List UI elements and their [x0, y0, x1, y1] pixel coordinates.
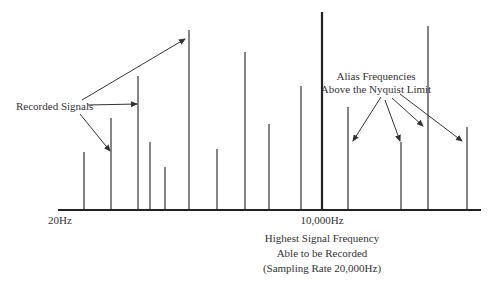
- axis-nyquist-label: 10,000Hz: [300, 214, 343, 227]
- axis-start-label: 20Hz: [48, 214, 72, 227]
- nyquist-caption-line3: (Sampling Rate 20,000Hz): [263, 262, 381, 275]
- recorded-signals-label: Recorded Signals: [16, 100, 93, 113]
- frequency-spectrum-diagram: [0, 0, 493, 285]
- arrow-icon: [400, 94, 462, 141]
- nyquist-caption-line2: Able to be Recorded: [277, 247, 368, 260]
- arrow-icon: [353, 97, 381, 141]
- arrow-icon: [385, 100, 400, 141]
- nyquist-caption-line1: Highest Signal Frequency: [265, 232, 379, 245]
- arrow-icon: [82, 39, 185, 100]
- alias-frequencies-label-line1: Alias Frequencies: [336, 70, 415, 83]
- arrow-icon: [392, 98, 423, 126]
- signal-lines: [84, 26, 467, 210]
- arrow-icon: [80, 114, 110, 151]
- arrow-icon: [88, 104, 137, 105]
- alias-frequencies-label-line2: Above the Nyquist Limit: [321, 83, 431, 96]
